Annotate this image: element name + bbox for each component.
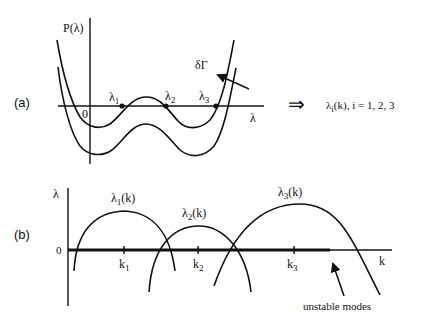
curve-label-3: λ3(k) (278, 185, 302, 201)
result-label: λi(k), i = 1, 2, 3 (326, 99, 395, 114)
curve-label-2: λ2(k) (182, 206, 206, 222)
unstable-modes-arrow-icon (333, 264, 344, 296)
zero-label: 0 (56, 244, 62, 256)
k-axis-label: k (379, 254, 385, 268)
panel-b: (b) λ k 0 k1 k2 k3 λ1(k) λ2(k) λ3(k) uns… (14, 185, 392, 312)
panel-b-label: (b) (14, 227, 30, 242)
root-label-2: λ2 (165, 89, 175, 105)
tick-label-k3: k3 (287, 257, 298, 273)
implies-arrow-icon: ⇒ (288, 93, 305, 115)
delta-gamma-label: δΓ (195, 58, 208, 72)
panel-a-label: (a) (14, 95, 30, 110)
p-lambda-axis-label: P(λ) (63, 21, 83, 35)
curve-label-1: λ1(k) (111, 191, 135, 207)
root-dot-3 (213, 103, 218, 108)
root-dot-1 (119, 103, 124, 108)
root-label-3: λ3 (199, 89, 210, 105)
lambda-axis-label: λ (250, 111, 256, 125)
unstable-modes-label: unstable modes (303, 300, 371, 312)
root-dot-2 (163, 103, 168, 108)
diagram-canvas: (a) P(λ) λ 0 λ1 λ2 λ3 δΓ ⇒ λi(k), i = 1,… (0, 0, 422, 319)
tick-label-k2: k2 (193, 257, 204, 273)
root-label-1: λ1 (109, 90, 119, 106)
panel-a: (a) P(λ) λ 0 λ1 λ2 λ3 δΓ ⇒ λi(k), i = 1,… (14, 18, 395, 164)
origin-label: 0 (82, 107, 88, 121)
lambda-axis-b-label: λ (53, 187, 59, 201)
tick-label-k1: k1 (119, 257, 130, 273)
